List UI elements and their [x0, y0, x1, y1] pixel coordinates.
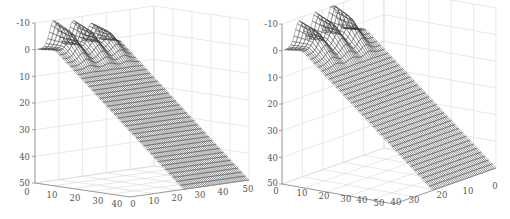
y-tick: 30 [195, 190, 206, 200]
z-tick: 40 [19, 152, 30, 162]
z-tick: 0 [273, 46, 278, 56]
y-tick: 10 [149, 196, 160, 206]
y-tick: 40 [218, 187, 229, 197]
x-tick: 20 [319, 191, 330, 201]
z-tick: 40 [267, 153, 278, 163]
x-axis-tick-labels: 0 10 20 30 40 [24, 187, 122, 209]
z-tick: -10 [16, 18, 30, 28]
z-tick: 20 [19, 98, 30, 108]
mesh-surface [284, 6, 496, 190]
z-tick: 10 [19, 72, 30, 82]
x-tick: 0 [24, 187, 29, 197]
x-tick: 40 [357, 195, 368, 205]
y-tick: 0 [492, 181, 497, 191]
mesh-wireframe [37, 20, 249, 189]
surface-plot-left: -10 0 10 20 30 40 50 0 10 20 30 40 0 10 … [16, 6, 253, 209]
y-tick: 20 [437, 190, 448, 200]
z-axis-tick-labels: -10 0 10 20 30 40 50 [264, 19, 278, 188]
z-axis-tick-labels: -10 0 10 20 30 40 50 [16, 18, 30, 188]
x-tick: 50 [374, 198, 385, 208]
x-tick: 30 [93, 196, 104, 206]
z-tick: 0 [25, 45, 30, 55]
x-tick: 10 [297, 188, 308, 198]
mesh-surface [37, 20, 249, 189]
figure: -10 0 10 20 30 40 50 0 10 20 30 40 0 10 … [0, 0, 510, 219]
x-tick: 10 [47, 190, 58, 200]
surface-plot-right: -10 0 10 20 30 40 50 0 10 20 30 40 50 40… [264, 0, 497, 208]
y-tick: 10 [463, 186, 474, 196]
y-tick: 40 [391, 197, 402, 207]
y-tick: 30 [409, 195, 420, 205]
x-tick: 30 [341, 194, 352, 204]
y-tick: 20 [172, 193, 183, 203]
mesh-wireframe [284, 6, 496, 190]
y-tick: 50 [243, 184, 254, 194]
z-tick: 30 [19, 125, 30, 135]
z-tick: 20 [267, 99, 278, 109]
z-tick: 10 [267, 73, 278, 83]
x-tick: 20 [70, 193, 81, 203]
x-tick: 40 [112, 199, 123, 209]
z-tick: -10 [264, 19, 278, 29]
y-tick: 0 [130, 199, 135, 209]
x-tick: 0 [273, 186, 278, 196]
z-tick: 30 [267, 126, 278, 136]
